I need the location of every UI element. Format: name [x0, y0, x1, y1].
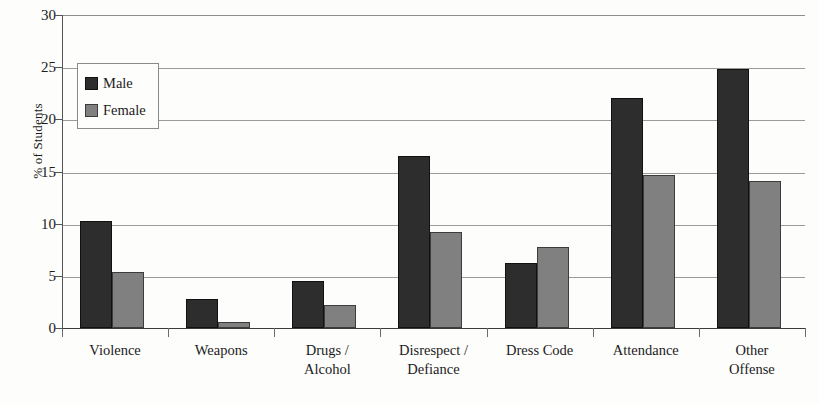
female-swatch-icon: [85, 104, 98, 117]
bar-male: [292, 281, 324, 328]
x-tick-label: Attendance: [593, 341, 699, 360]
bar-male: [717, 69, 749, 328]
x-axis-separator: [487, 328, 488, 337]
bar-female: [537, 247, 569, 328]
legend-label-female: Female: [103, 103, 146, 118]
bar-female: [749, 181, 781, 328]
bar-female: [430, 232, 462, 328]
y-axis-tick-labels: 051015202530: [26, 0, 56, 405]
x-tick-label-line2: Defiance: [380, 360, 486, 379]
x-axis-separator: [168, 328, 169, 337]
male-swatch-icon: [85, 77, 98, 90]
x-tick-label-line1: Drugs /: [306, 342, 349, 358]
x-tick-label-line1: Disrespect /: [399, 342, 468, 358]
x-tick-label-line1: Attendance: [613, 342, 679, 358]
bars-layer: [62, 15, 805, 328]
x-tick-label: OtherOffense: [699, 341, 805, 379]
bar-female: [643, 175, 675, 328]
bar-male: [505, 263, 537, 328]
bar-female: [112, 272, 144, 328]
y-tick-label: 30: [26, 8, 56, 23]
y-tick-mark: [55, 224, 63, 225]
legend-item-male: Male: [85, 70, 158, 97]
y-tick-label: 20: [26, 112, 56, 127]
x-axis-separator: [805, 328, 806, 337]
y-tick-mark: [55, 119, 63, 120]
x-axis-separator: [380, 328, 381, 337]
x-tick-label: Violence: [62, 341, 168, 360]
legend-item-female: Female: [85, 97, 158, 124]
x-axis-separator: [62, 328, 63, 337]
x-axis-line: [62, 328, 805, 329]
x-tick-label-line1: Dress Code: [506, 342, 573, 358]
x-tick-label-line1: Other: [735, 342, 768, 358]
y-tick-label: 15: [26, 164, 56, 179]
x-tick-label: Drugs /Alcohol: [274, 341, 380, 379]
y-tick-label: 0: [26, 321, 56, 336]
bar-chart: % of Students 051015202530 ViolenceWeapo…: [0, 0, 819, 405]
x-axis-separator: [593, 328, 594, 337]
x-tick-label: Weapons: [168, 341, 274, 360]
y-tick-mark: [55, 67, 63, 68]
y-tick-mark: [55, 172, 63, 173]
x-tick-label: Disrespect /Defiance: [380, 341, 486, 379]
x-tick-label-line1: Weapons: [195, 342, 248, 358]
bar-male: [611, 98, 643, 328]
x-axis-separator: [274, 328, 275, 337]
y-tick-label: 10: [26, 216, 56, 231]
bar-male: [186, 299, 218, 328]
y-tick-mark: [55, 276, 63, 277]
x-tick-label: Dress Code: [487, 341, 593, 360]
x-tick-label-line2: Alcohol: [274, 360, 380, 379]
y-tick-label: 25: [26, 60, 56, 75]
x-tick-label-line2: Offense: [699, 360, 805, 379]
y-tick-mark: [55, 328, 63, 329]
bar-male: [398, 156, 430, 328]
legend: Male Female: [77, 63, 159, 129]
bar-male: [80, 221, 112, 328]
y-tick-label: 5: [26, 268, 56, 283]
bar-female: [324, 305, 356, 328]
x-tick-label-line1: Violence: [89, 342, 140, 358]
legend-label-male: Male: [103, 76, 133, 91]
y-tick-mark: [55, 15, 63, 16]
x-axis-separator: [699, 328, 700, 337]
